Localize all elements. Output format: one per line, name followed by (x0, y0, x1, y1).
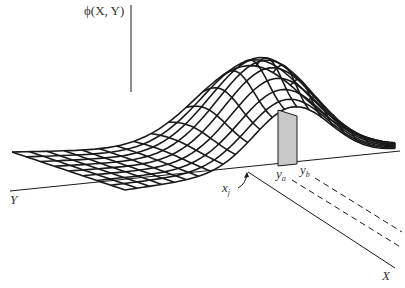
x-axis-label: X (382, 268, 390, 284)
shaded-slice (278, 110, 297, 166)
surface-line (111, 99, 395, 185)
y-axis-label-text: Y (10, 192, 17, 207)
x-axis (248, 172, 395, 268)
z-axis-label-text: ϕ(X, Y) (84, 3, 124, 18)
x-axis-label-text: X (382, 268, 390, 283)
ya-label: ya (276, 166, 286, 183)
xj-label: xj (222, 180, 230, 197)
z-axis-label: ϕ(X, Y) (84, 3, 124, 19)
yb-label: yb (300, 162, 310, 179)
xj-arrowhead (244, 172, 249, 178)
wireframe-surface (12, 58, 395, 191)
dashed-line-ya (292, 180, 402, 248)
xj-label-sub: j (228, 188, 230, 197)
ya-label-sub: a (282, 174, 286, 183)
yb-label-sub: b (306, 170, 310, 179)
y-axis-label: Y (10, 192, 17, 208)
surface-line (12, 66, 395, 152)
surface-diagram (0, 0, 405, 288)
